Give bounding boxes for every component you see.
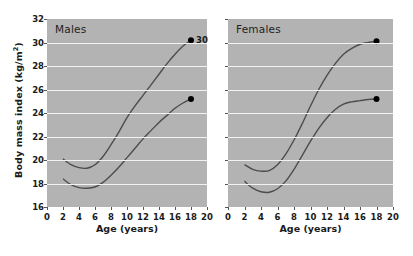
- x-tick-label-12: 12: [321, 212, 333, 222]
- y-tick-mark: [225, 66, 228, 67]
- x-tick-label-6: 6: [92, 212, 98, 222]
- x-tick-label-12: 12: [137, 212, 149, 222]
- x-tick-label-2: 2: [242, 212, 248, 222]
- x-tick-mark: [294, 207, 295, 210]
- gridline: [47, 184, 207, 185]
- x-tick-label-18: 18: [185, 212, 197, 222]
- gridline: [47, 137, 207, 138]
- upper-centile-females: [245, 41, 377, 171]
- y-tick-mark: [44, 19, 47, 20]
- x-tick-mark: [245, 207, 246, 210]
- x-tick-mark: [63, 207, 64, 210]
- x-tick-label-10: 10: [305, 212, 317, 222]
- gridline: [47, 90, 207, 91]
- y-tick-label-20: 20: [32, 155, 44, 165]
- y-tick-mark: [225, 160, 228, 161]
- x-tick-label-10: 10: [121, 212, 133, 222]
- x-tick-label-4: 4: [258, 212, 264, 222]
- x-tick-mark: [228, 207, 229, 210]
- x-tick-label-14: 14: [338, 212, 350, 222]
- gridline: [228, 43, 393, 44]
- gridline: [228, 137, 393, 138]
- x-tick-mark: [360, 207, 361, 210]
- bmi-centile-figure: Body mass index (kg/m2) Males Age (years…: [0, 0, 413, 256]
- x-tick-mark: [393, 207, 394, 210]
- x-tick-label-8: 8: [108, 212, 114, 222]
- y-tick-mark: [225, 90, 228, 91]
- x-tick-mark: [79, 207, 80, 210]
- x-tick-mark: [327, 207, 328, 210]
- y-tick-mark: [44, 90, 47, 91]
- x-tick-mark: [191, 207, 192, 210]
- gridline: [228, 160, 393, 161]
- y-tick-mark: [225, 113, 228, 114]
- x-tick-mark: [127, 207, 128, 210]
- x-tick-mark: [175, 207, 176, 210]
- lower-centile-females-endpoint-marker: [374, 96, 380, 102]
- x-tick-mark: [111, 207, 112, 210]
- y-tick-label-26: 26: [32, 85, 44, 95]
- x-tick-label-8: 8: [291, 212, 297, 222]
- y-tick-label-24: 24: [32, 108, 44, 118]
- x-tick-label-4: 4: [76, 212, 82, 222]
- panel-females: Females Age (years) 02468101214161820: [206, 0, 413, 256]
- panel-males: Males Age (years) 1618202224262830320246…: [0, 0, 212, 256]
- x-tick-mark: [344, 207, 345, 210]
- y-tick-mark: [44, 184, 47, 185]
- gridline: [228, 66, 393, 67]
- x-tick-mark: [261, 207, 262, 210]
- x-tick-mark: [311, 207, 312, 210]
- y-tick-mark: [44, 43, 47, 44]
- x-tick-mark: [143, 207, 144, 210]
- gridline: [47, 113, 207, 114]
- x-tick-label-18: 18: [371, 212, 383, 222]
- y-tick-label-18: 18: [32, 179, 44, 189]
- gridline: [47, 43, 207, 44]
- y-tick-mark: [44, 113, 47, 114]
- gridline: [228, 113, 393, 114]
- x-axis-title-females: Age (years): [228, 223, 393, 234]
- y-tick-label-22: 22: [32, 132, 44, 142]
- y-tick-mark: [225, 19, 228, 20]
- y-tick-mark: [44, 66, 47, 67]
- y-tick-mark: [44, 137, 47, 138]
- y-tick-label-30: 30: [32, 38, 44, 48]
- x-tick-label-16: 16: [169, 212, 181, 222]
- x-tick-mark: [159, 207, 160, 210]
- x-tick-label-20: 20: [387, 212, 399, 222]
- x-tick-mark: [95, 207, 96, 210]
- x-tick-mark: [377, 207, 378, 210]
- gridline: [228, 90, 393, 91]
- y-tick-mark: [225, 137, 228, 138]
- gridline: [47, 66, 207, 67]
- y-tick-mark: [225, 43, 228, 44]
- x-axis-title-males: Age (years): [47, 223, 207, 234]
- y-tick-mark: [225, 184, 228, 185]
- x-tick-mark: [47, 207, 48, 210]
- y-tick-label-16: 16: [32, 202, 44, 212]
- gridline: [47, 160, 207, 161]
- y-tick-label-32: 32: [32, 14, 44, 24]
- x-tick-label-16: 16: [354, 212, 366, 222]
- plot-area-females: Females Age (years) 02468101214161820: [228, 19, 393, 207]
- x-tick-label-14: 14: [153, 212, 165, 222]
- x-tick-label-0: 0: [225, 212, 231, 222]
- y-tick-label-28: 28: [32, 61, 44, 71]
- x-tick-label-0: 0: [44, 212, 50, 222]
- lower-centile-males-endpoint-marker: [188, 96, 194, 102]
- x-tick-label-2: 2: [60, 212, 66, 222]
- gridline: [228, 184, 393, 185]
- upper-centile-males: [63, 40, 191, 168]
- x-tick-label-6: 6: [275, 212, 281, 222]
- x-tick-mark: [278, 207, 279, 210]
- plot-area-males: Males Age (years) 1618202224262830320246…: [47, 19, 207, 207]
- y-tick-mark: [44, 160, 47, 161]
